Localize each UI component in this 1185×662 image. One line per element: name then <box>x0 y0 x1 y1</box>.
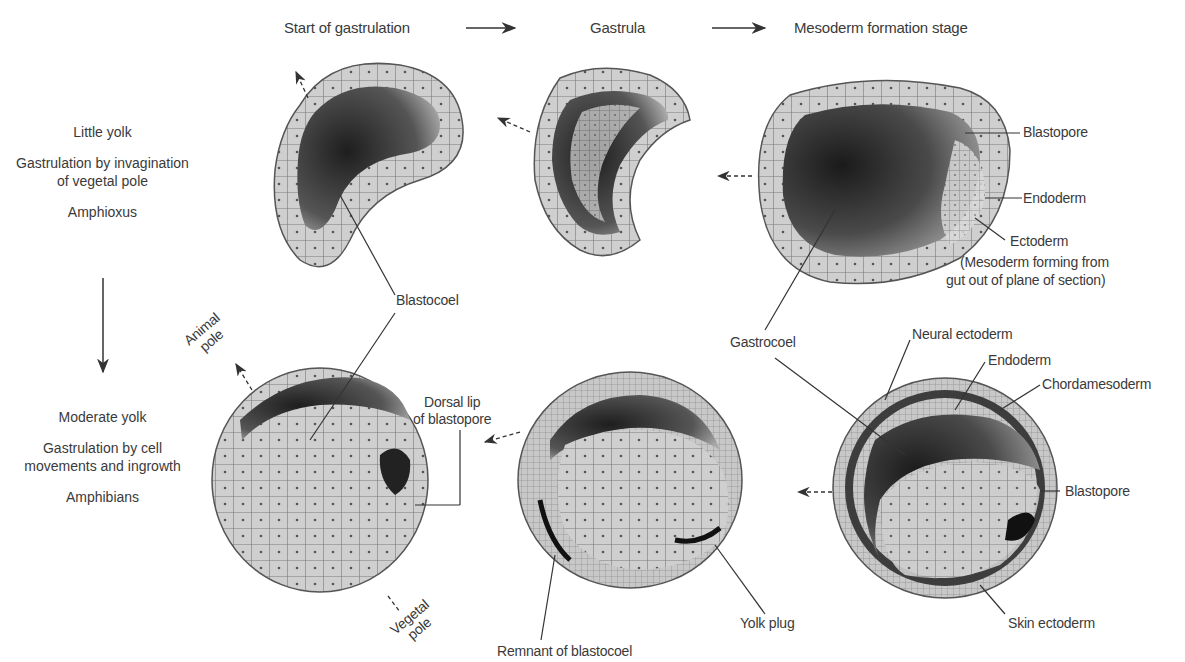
amphioxus-method-2: of vegetal pole <box>0 172 205 190</box>
amphioxus-yolk: Little yolk <box>0 123 205 141</box>
label-blastopore-top: Blastopore <box>1023 124 1088 141</box>
label-mesoderm-note-2: gut out of plane of section) <box>946 272 1105 289</box>
label-blastopore-bottom: Blastopore <box>1065 483 1130 500</box>
label-yolk-plug: Yolk plug <box>740 615 795 632</box>
amphibian-description: Moderate yolk Gastrulation by cell movem… <box>0 408 205 506</box>
amphioxus-description: Little yolk Gastrulation by invagination… <box>0 123 205 221</box>
gastrulation-figure: Start of gastrulation Gastrula Mesoderm … <box>0 0 1185 662</box>
stage-gastrula-label: Gastrula <box>590 19 645 36</box>
stage-start-label: Start of gastrulation <box>284 19 410 36</box>
amphioxus-gastrula <box>534 68 690 255</box>
label-neural-ectoderm: Neural ectoderm <box>912 326 1013 343</box>
label-dorsal-lip: Dorsal lip of blastopore <box>413 394 491 428</box>
amphibian-gastrula <box>518 372 742 588</box>
stage-mesoderm-label: Mesoderm formation stage <box>794 19 968 36</box>
amphioxus-blastula <box>274 63 463 266</box>
label-gastrocoel: Gastrocoel <box>730 334 796 351</box>
amphibian-organism: Amphibians <box>0 488 205 506</box>
amphibian-method-2: movements and ingrowth <box>0 457 205 475</box>
label-blastocoel: Blastocoel <box>396 292 459 309</box>
label-skin-ectoderm: Skin ectoderm <box>1008 615 1095 632</box>
amphibian-method-1: Gastrulation by cell <box>0 439 205 457</box>
label-ectoderm-top: Ectoderm <box>1010 233 1068 250</box>
label-chordamesoderm: Chordamesoderm <box>1042 376 1151 393</box>
amphibian-blastula <box>212 368 428 592</box>
amphioxus-method-1: Gastrulation by invagination <box>0 154 205 172</box>
label-endoderm-top: Endoderm <box>1023 190 1086 207</box>
label-mesoderm-note-1: (Mesoderm forming from <box>960 254 1109 271</box>
label-endoderm-bottom: Endoderm <box>988 352 1051 369</box>
amphibian-mesoderm-embryo <box>833 378 1057 598</box>
label-remnant-blastocoel: Remnant of blastocoel <box>497 643 632 660</box>
amphibian-yolk: Moderate yolk <box>0 408 205 426</box>
amphioxus-organism: Amphioxus <box>0 203 205 221</box>
